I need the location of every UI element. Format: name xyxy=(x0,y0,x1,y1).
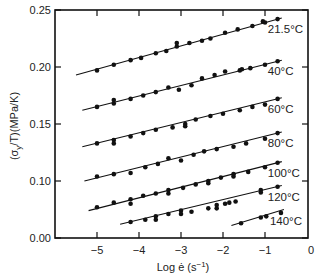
x-tick-label: −2 xyxy=(217,244,230,256)
data-point xyxy=(179,212,184,217)
data-point xyxy=(143,165,148,170)
data-point xyxy=(128,171,133,176)
data-point xyxy=(250,105,255,110)
data-point xyxy=(263,137,268,142)
data-point xyxy=(275,184,280,189)
x-axis-label: Log ė (s−1) xyxy=(157,260,210,273)
data-point xyxy=(263,20,268,25)
data-point xyxy=(154,90,159,95)
plot-svg: 0.250.200.150.100.00 −5−4−3−2−10 21.5°C4… xyxy=(0,0,321,280)
data-point xyxy=(112,172,117,177)
data-point xyxy=(95,105,100,110)
data-point xyxy=(191,152,196,157)
series-label: 140°C xyxy=(270,215,302,227)
series-label: 120°C xyxy=(268,191,300,203)
data-point xyxy=(250,24,255,29)
data-point xyxy=(275,97,280,102)
data-point xyxy=(128,220,133,225)
data-point xyxy=(141,131,146,136)
data-point xyxy=(193,117,198,122)
data-point xyxy=(275,131,280,136)
data-point xyxy=(263,62,268,67)
y-axis-ticks: 0.250.200.150.100.00 xyxy=(30,4,308,244)
series-label: 80°C xyxy=(268,137,294,149)
x-tick-label: −3 xyxy=(175,244,188,256)
data-point xyxy=(202,149,207,154)
x-tick-label: −1 xyxy=(259,244,272,256)
data-point xyxy=(128,197,133,202)
series-label: 60°C xyxy=(268,103,294,115)
data-point xyxy=(275,160,280,165)
data-point xyxy=(112,141,117,146)
data-point xyxy=(154,217,159,222)
y-tick-label: 0.25 xyxy=(30,4,51,16)
data-point xyxy=(223,202,228,207)
data-point xyxy=(95,68,100,73)
data-point xyxy=(181,186,186,191)
data-point xyxy=(263,102,268,107)
series-label: 21.5°C xyxy=(268,23,303,35)
data-point xyxy=(248,66,253,71)
data-point xyxy=(166,212,171,217)
data-point xyxy=(212,73,217,78)
data-point xyxy=(189,209,194,214)
data-point xyxy=(128,97,133,102)
data-point xyxy=(275,17,280,22)
data-point xyxy=(206,181,211,186)
y-tick-label: 0.15 xyxy=(30,118,51,130)
data-point xyxy=(128,58,133,63)
data-point xyxy=(275,59,280,64)
data-point xyxy=(246,170,251,175)
data-point xyxy=(223,69,228,74)
data-point xyxy=(231,174,236,179)
data-point xyxy=(259,190,264,195)
data-point xyxy=(164,49,169,54)
data-point xyxy=(200,38,205,43)
data-point xyxy=(139,56,144,61)
data-point xyxy=(156,162,161,167)
data-point xyxy=(128,134,133,139)
data-point xyxy=(244,141,249,146)
data-point xyxy=(95,174,100,179)
data-point xyxy=(221,111,226,116)
data-series: 21.5°C40°C60°C80°C100°C120°C140°C xyxy=(76,17,303,227)
series-140c: 140°C xyxy=(231,210,302,227)
data-point xyxy=(259,215,264,220)
data-point xyxy=(141,93,146,98)
y-tick-label: 0.00 xyxy=(30,232,51,244)
y-tick-label: 0.10 xyxy=(30,175,51,187)
data-point xyxy=(206,206,211,211)
data-point xyxy=(263,165,268,170)
data-point xyxy=(183,124,188,129)
data-point xyxy=(208,114,213,119)
data-point xyxy=(166,191,171,196)
yield-stress-chart: 0.250.200.150.100.00 −5−4−3−2−10 21.5°C4… xyxy=(0,0,321,280)
data-point xyxy=(95,141,100,146)
data-point xyxy=(240,67,245,72)
data-point xyxy=(95,205,100,210)
series-label: 100°C xyxy=(268,167,300,179)
data-point xyxy=(200,76,205,81)
series-label: 40°C xyxy=(268,65,294,77)
series-100c: 100°C xyxy=(89,160,300,210)
data-point xyxy=(233,199,238,204)
data-point xyxy=(154,191,159,196)
x-tick-label: −5 xyxy=(91,244,104,256)
data-point xyxy=(112,98,117,103)
fit-line xyxy=(89,162,282,211)
data-point xyxy=(179,158,184,163)
data-point xyxy=(235,27,240,32)
data-point xyxy=(189,83,194,88)
axes-box xyxy=(55,10,308,238)
y-tick-label: 0.20 xyxy=(30,61,51,73)
data-point xyxy=(264,214,269,219)
data-point xyxy=(177,88,182,93)
data-point xyxy=(187,41,192,46)
data-point xyxy=(231,145,236,150)
data-point xyxy=(141,194,146,199)
y-axis-label: (σy/T)(MPa/K) xyxy=(8,92,23,160)
data-point xyxy=(166,85,171,90)
data-point xyxy=(112,62,117,67)
data-point xyxy=(208,36,213,41)
plot-frame xyxy=(55,10,308,238)
